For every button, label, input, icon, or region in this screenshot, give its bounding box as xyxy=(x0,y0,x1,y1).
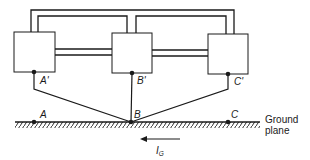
ground-current-arrow-icon xyxy=(140,136,180,142)
terminal-dot-c-prime xyxy=(226,72,231,77)
equipment-box-a xyxy=(14,32,55,72)
ground-plane-label-line2: plane xyxy=(265,125,290,136)
ground-plane-label-line1: Ground xyxy=(265,114,298,125)
terminal-label-a-prime: A' xyxy=(39,75,50,86)
ground-current-label: IG xyxy=(156,145,164,157)
equipment-box-c xyxy=(208,34,248,74)
terminal-dot-a-prime xyxy=(32,70,37,75)
ground-leads xyxy=(34,72,228,122)
ground-plane xyxy=(15,122,260,128)
equipment-box-b xyxy=(112,33,152,73)
terminal-label-b-prime: B' xyxy=(137,75,147,86)
ground-label-a: A xyxy=(39,109,47,120)
ground-point-c xyxy=(226,120,231,125)
ground-label-b: B xyxy=(134,109,141,120)
terminal-label-c-prime: C' xyxy=(234,76,244,87)
ground-label-c: C xyxy=(231,109,239,120)
grounding-diagram: A' B' C' A B C Ground plane IG xyxy=(0,0,310,160)
terminal-dot-b-prime xyxy=(130,71,135,76)
ground-point-b xyxy=(129,120,134,125)
top-signal-wires xyxy=(31,10,234,34)
ground-point-a xyxy=(32,120,37,125)
